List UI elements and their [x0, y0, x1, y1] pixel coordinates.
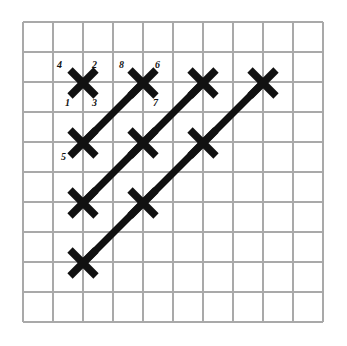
- node-label: 6: [155, 60, 160, 70]
- node-label: 3: [92, 98, 97, 108]
- node-label: 1: [65, 98, 70, 108]
- node-label: 4: [57, 60, 62, 70]
- node-label: 8: [119, 60, 124, 70]
- node-label: 7: [153, 98, 158, 108]
- node-label: 5: [61, 152, 66, 162]
- node-label: 2: [92, 60, 97, 70]
- lattice-figure: [0, 0, 347, 346]
- diagram-canvas: 42138675: [0, 0, 347, 346]
